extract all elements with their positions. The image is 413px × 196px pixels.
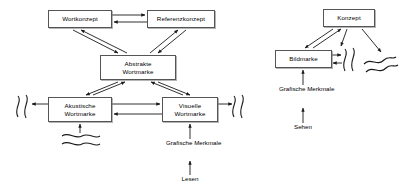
node-konzept[interactable]: Konzept	[323, 9, 375, 27]
edge-konzept-to-wave-diagonal	[362, 29, 381, 52]
node-akustische-wortmarke-label-line2: Wortmarke	[64, 110, 95, 118]
node-referenzkonzept[interactable]: Referenzkonzept	[147, 10, 215, 28]
node-visuelle-wortmarke[interactable]: Visuelle Wortmarke	[162, 97, 218, 122]
node-akustische-wortmarke[interactable]: Akustische Wortmarke	[48, 97, 112, 122]
label-grafische-merkmale-right-line1: Grafische	[279, 85, 305, 92]
node-abstrakte-wortmarke-label-line1: Abstrakte	[124, 60, 151, 68]
diagram-canvas: Wortkonzept Referenzkonzept Abstrakte Wo…	[0, 0, 413, 196]
label-lesen: Lesen	[166, 175, 214, 184]
label-grafische-merkmale-left: Grafische Merkmale	[166, 139, 214, 148]
edge-wortkonzept-abstrakte-a	[73, 30, 118, 53]
edge-bildmarke-konzept-a	[313, 29, 341, 48]
edge-abstrakte-wortkonzept-a	[81, 30, 127, 53]
node-visuelle-wortmarke-label-line1: Visuelle	[179, 102, 201, 110]
node-bildmarke[interactable]: Bildmarke	[275, 50, 332, 68]
label-sehen: Sehen	[279, 123, 327, 132]
wave-acoustic-left-icon	[17, 95, 28, 118]
wave-konzept-diagonal-icon	[364, 57, 398, 72]
node-abstrakte-wortmarke-label-line2: Wortmarke	[122, 68, 153, 76]
edge-visuelle-abstrakte-a	[151, 82, 183, 95]
edge-abstrakte-visuelle-a	[158, 82, 190, 95]
node-konzept-label: Konzept	[337, 14, 360, 22]
node-wortkonzept[interactable]: Wortkonzept	[48, 10, 112, 28]
edge-konzept-to-wave-vertical	[341, 29, 347, 46]
node-referenzkonzept-label: Referenzkonzept	[157, 15, 205, 23]
node-visuelle-wortmarke-label-line2: Wortmarke	[174, 110, 205, 118]
label-grafische-merkmale-left-line2: Merkmale	[194, 139, 221, 146]
node-bildmarke-label: Bildmarke	[289, 55, 317, 63]
wave-acoustic-below-icon	[62, 134, 100, 145]
label-lesen-text: Lesen	[182, 175, 199, 182]
node-akustische-wortmarke-label-line1: Akustische	[65, 102, 96, 110]
wave-visual-right-icon	[233, 95, 244, 118]
edge-konzept-bildmarke-a	[305, 29, 333, 48]
node-abstrakte-wortmarke[interactable]: Abstrakte Wortmarke	[100, 55, 176, 80]
label-grafische-merkmale-right: Grafische Merkmale	[279, 85, 327, 94]
edge-abstrakte-akustische-a	[86, 82, 118, 95]
edge-akustische-abstrakte-a	[93, 82, 125, 95]
edge-abstrakte-referenzkonzept-a	[150, 30, 178, 53]
label-grafische-merkmale-left-line1: Grafische	[166, 139, 192, 146]
wave-bildmarke-right-icon	[344, 48, 355, 71]
label-grafische-merkmale-right-line2: Merkmale	[307, 85, 334, 92]
node-wortkonzept-label: Wortkonzept	[62, 15, 98, 23]
label-sehen-text: Sehen	[294, 123, 312, 130]
edge-referenzkonzept-abstrakte-a	[158, 30, 186, 53]
